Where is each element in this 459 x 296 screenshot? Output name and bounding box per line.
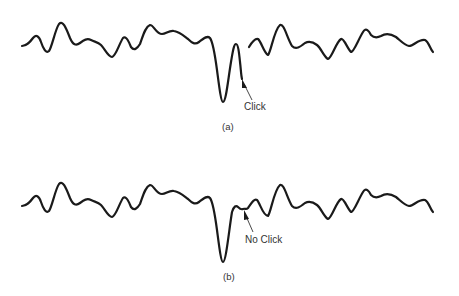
- figure-canvas: [0, 0, 459, 296]
- caption-a: (a): [222, 121, 234, 132]
- waveform-a-left: [22, 23, 242, 102]
- no-click-arrow: [244, 210, 253, 232]
- click-arrow: [242, 79, 252, 100]
- click-annotation: Click: [244, 101, 266, 112]
- caption-b: (b): [223, 271, 235, 282]
- no-click-annotation: No Click: [245, 234, 282, 245]
- waveform-a-right: [249, 25, 433, 59]
- waveform-b: [22, 183, 433, 262]
